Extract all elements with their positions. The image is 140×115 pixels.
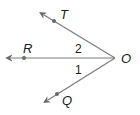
point-label-t: T [60, 7, 69, 22]
point-r-dot [22, 56, 26, 60]
angle-label-2: 2 [75, 42, 82, 56]
ray-or [11, 56, 115, 60]
point-t-dot [52, 19, 56, 23]
angle-label-1: 1 [75, 63, 82, 77]
vertex-label-o: O [121, 51, 131, 66]
point-label-r: R [23, 41, 32, 56]
point-q-dot [55, 92, 59, 96]
point-label-q: Q [62, 93, 72, 108]
angle-diagram: O T R Q 2 1 [0, 0, 140, 115]
